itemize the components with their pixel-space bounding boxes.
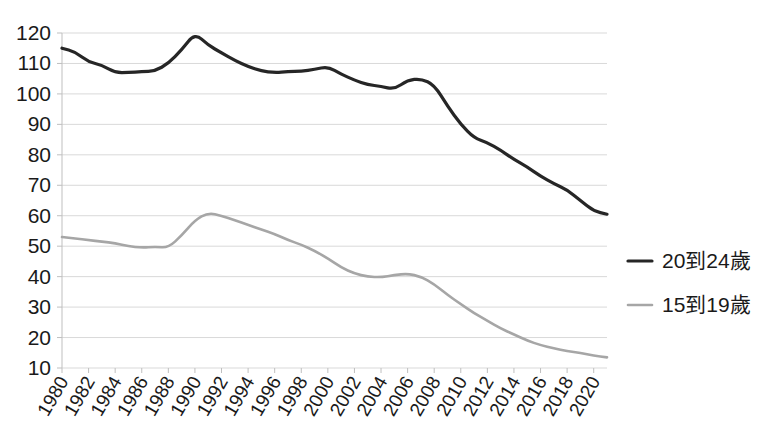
y-tick-label: 100 <box>16 82 51 105</box>
y-tick-label: 80 <box>28 143 51 166</box>
y-tick-label: 40 <box>28 265 51 288</box>
legend-label-2: 15到19歲 <box>662 293 751 316</box>
y-tick-label: 10 <box>28 356 51 379</box>
series-group <box>62 37 607 358</box>
gridlines <box>62 33 607 368</box>
y-axis-ticks: 120110100908070605040302010 <box>16 21 62 379</box>
y-tick-label: 70 <box>28 173 51 196</box>
y-tick-label: 120 <box>16 21 51 44</box>
y-tick-label: 90 <box>28 112 51 135</box>
legend-label-1: 20到24歲 <box>662 249 751 272</box>
chart-canvas: 1201101009080706050403020101980198219841… <box>0 0 774 444</box>
y-tick-label: 50 <box>28 234 51 257</box>
y-tick-label: 30 <box>28 295 51 318</box>
y-tick-label: 20 <box>28 326 51 349</box>
x-axis-ticks: 1980198219841986198819901992199419961998… <box>33 368 604 420</box>
line-chart: 1201101009080706050403020101980198219841… <box>0 0 774 444</box>
y-tick-label: 60 <box>28 204 51 227</box>
y-tick-label: 110 <box>18 51 51 74</box>
series-line-2 <box>62 214 607 358</box>
legend: 20到24歲15到19歲 <box>628 249 751 316</box>
